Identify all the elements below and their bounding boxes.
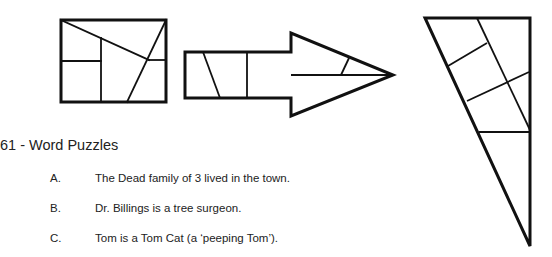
divided-triangle-figure <box>425 18 530 246</box>
puzzle-figures <box>0 0 552 257</box>
item-letter: C. <box>50 232 62 244</box>
section-heading: 61 - Word Puzzles <box>0 137 118 153</box>
item-letter: B. <box>50 202 61 214</box>
divided-rectangle-figure <box>61 20 166 102</box>
item-text: Tom is a Tom Cat (a ‘peeping Tom’). <box>95 232 278 244</box>
divided-arrow-figure <box>185 33 393 116</box>
item-text: Dr. Billings is a tree surgeon. <box>95 202 241 214</box>
item-letter: A. <box>50 172 61 184</box>
item-text: The Dead family of 3 lived in the town. <box>95 172 290 184</box>
